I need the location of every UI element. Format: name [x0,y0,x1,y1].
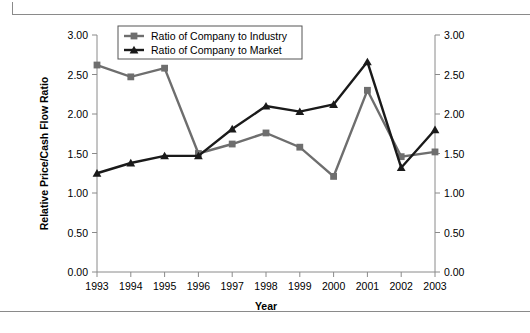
data-point-marker [229,141,236,148]
plot-area: 0.000.501.001.502.002.503.00 0.000.501.0… [0,0,530,333]
y-tick-label-left: 2.50 [68,69,89,81]
x-axis-ticks: 1993199419951996199719981999200020012002… [85,272,447,292]
y-tick-label-right: 1.00 [444,187,465,199]
x-tick-label: 2000 [322,280,346,292]
data-point-marker [363,58,372,66]
chart-figure: 0.000.501.001.502.002.503.00 0.000.501.0… [0,0,530,333]
y-tick-label-right: 0.50 [444,227,465,239]
data-point-marker [431,126,440,134]
legend-label: Ratio of Company to Industry [151,30,288,42]
y-axis-title: Relative Price/Cash Flow Ratio [38,77,50,230]
y-tick-label-right: 0.00 [444,266,465,278]
data-point-marker [94,62,101,69]
y-tick-label-left: 2.00 [68,108,89,120]
x-tick-label: 2003 [423,280,447,292]
y-tick-label-left: 0.00 [68,266,89,278]
y-tick-label-left: 3.00 [68,29,89,41]
data-series-layer [93,58,440,180]
data-point-marker [432,149,439,156]
x-tick-label: 2001 [356,280,380,292]
legend-label: Ratio of Company to Market [151,44,282,56]
x-tick-label: 2002 [390,280,414,292]
series-line [97,62,435,173]
y-tick-label-left: 1.00 [68,187,89,199]
y-tick-label-right: 2.00 [444,108,465,120]
chart-legend: Ratio of Company to IndustryRatio of Com… [118,26,302,59]
y-tick-label-left: 1.50 [68,148,89,160]
data-point-marker [161,65,168,72]
x-tick-label: 1993 [85,280,109,292]
legend-square-marker-icon [131,33,138,40]
x-tick-label: 1998 [254,280,278,292]
data-point-marker [296,144,303,151]
y-tick-label-right: 1.50 [444,148,465,160]
x-tick-label: 1994 [119,280,143,292]
y-tick-label-right: 3.00 [444,29,465,41]
data-point-marker [263,130,270,137]
axis-lines [97,35,435,272]
y-tick-label-right: 2.50 [444,69,465,81]
y-axis-left-ticks: 0.000.501.001.502.002.503.00 [68,29,97,278]
x-tick-label: 1997 [221,280,245,292]
line-chart-svg: 0.000.501.001.502.002.503.00 0.000.501.0… [0,0,530,333]
x-axis-title: Year [255,300,277,312]
x-tick-label: 1995 [153,280,177,292]
data-point-marker [127,73,134,80]
data-point-marker [364,87,371,94]
data-point-marker [330,173,337,180]
y-axis-right-ticks: 0.000.501.001.502.002.503.00 [435,29,465,278]
y-tick-label-left: 0.50 [68,227,89,239]
x-tick-label: 1999 [288,280,312,292]
x-tick-label: 1996 [187,280,211,292]
series-market [93,58,440,177]
